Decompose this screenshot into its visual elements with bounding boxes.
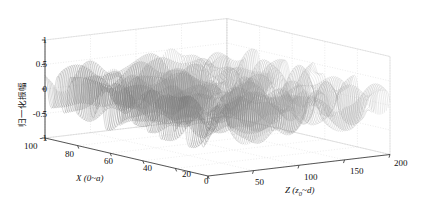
figure-container: 1 0.5 0 -0.5 -1 归一化振幅 100 80 60 40 20 0 … xyxy=(0,0,422,210)
y-axis-label: 归一化振幅 xyxy=(18,82,27,127)
x-tick-label: 100 xyxy=(24,142,38,151)
z-tick-label: 100 xyxy=(304,173,318,182)
y-tick-label: 0.5 xyxy=(29,60,47,69)
y-tick-label: -0.5 xyxy=(25,110,47,119)
x-tick-label: 60 xyxy=(104,157,113,166)
waterfall-3d-plot xyxy=(0,0,422,210)
z-axis-label-suffix: ~d) xyxy=(302,185,314,195)
z-axis-label-prefix: Z (z xyxy=(285,185,299,195)
x-axis-label: X (0~a) xyxy=(76,174,104,183)
x-tick-label: 40 xyxy=(143,164,152,173)
x-tick-label: 20 xyxy=(182,170,191,179)
x-tick-label: 0 xyxy=(204,177,209,186)
x-tick-label: 80 xyxy=(65,150,74,159)
y-tick-label: 1 xyxy=(37,36,47,45)
z-tick-label: 200 xyxy=(394,159,408,168)
y-tick-label: 0 xyxy=(37,85,47,94)
z-tick-label: 50 xyxy=(255,178,264,187)
z-axis-label: Z (z0~d) xyxy=(285,186,314,198)
z-tick-label: 150 xyxy=(350,167,364,176)
